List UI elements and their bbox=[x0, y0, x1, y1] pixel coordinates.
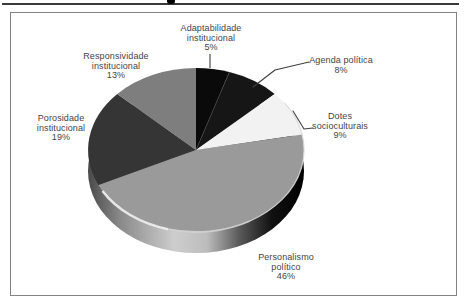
label-percent: 13% bbox=[83, 71, 148, 81]
label-percent: 9% bbox=[312, 131, 368, 141]
label-personalismo-politico: Personalismo político 46% bbox=[258, 253, 314, 282]
label-dotes-socioculturais: Dotes socioculturais 9% bbox=[312, 112, 368, 141]
leader-line-agenda bbox=[253, 62, 309, 87]
label-percent: 46% bbox=[258, 272, 314, 282]
label-adaptabilidade-institucional: Adaptabilidade institucional 5% bbox=[181, 24, 242, 53]
label-porosidade-institucional: Porosidade institucional 19% bbox=[37, 114, 85, 143]
label-percent: 19% bbox=[37, 133, 85, 143]
label-responsividade-institucional: Responsividade institucional 13% bbox=[83, 52, 148, 81]
label-percent: 8% bbox=[309, 66, 373, 76]
figure: Adaptabilidade institucional 5% Agenda p… bbox=[0, 0, 464, 303]
label-percent: 5% bbox=[181, 43, 242, 53]
label-agenda-politica: Agenda política 8% bbox=[309, 56, 373, 75]
